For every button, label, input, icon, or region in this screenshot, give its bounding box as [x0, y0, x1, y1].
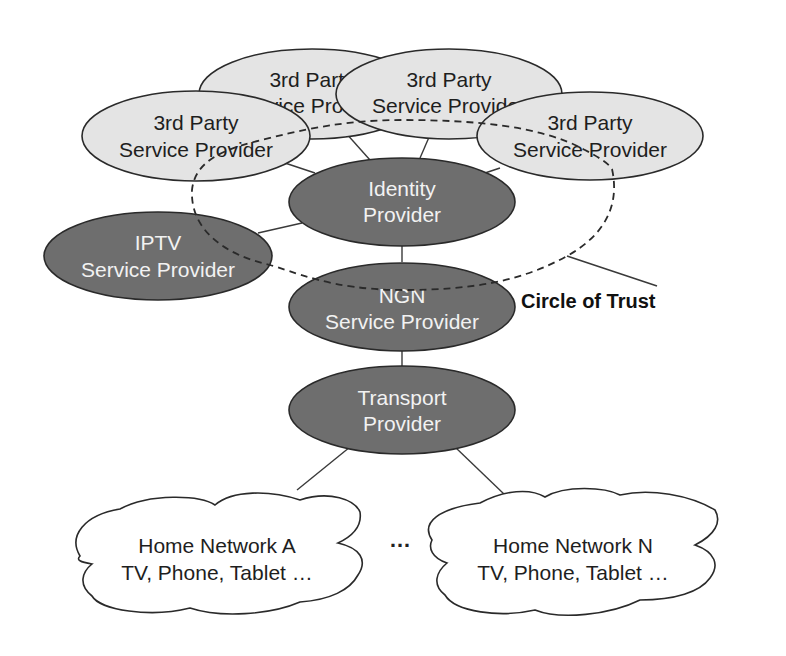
node-identity-line2: Provider — [363, 203, 441, 226]
edge-iptv-identity — [258, 223, 302, 233]
node-ngn-line2: Service Provider — [325, 310, 479, 333]
home-n-line2: TV, Phone, Tablet … — [477, 561, 668, 584]
circle-of-trust-pointer — [567, 256, 657, 286]
node-iptv-line1: IPTV — [135, 231, 182, 254]
node-tp-left-line2: Service Provider — [119, 138, 273, 161]
home-a-line1: Home Network A — [138, 534, 296, 557]
node-identity-provider: Identity Provider — [289, 158, 515, 246]
node-tp-back-right-line1: 3rd Party — [406, 68, 492, 91]
node-transport-line2: Provider — [363, 412, 441, 435]
node-home-network-n: Home Network N TV, Phone, Tablet … — [429, 489, 718, 616]
node-iptv-line2: Service Provider — [81, 258, 235, 281]
node-tp-right-line2: Service Provider — [513, 138, 667, 161]
node-transport-provider: Transport Provider — [289, 366, 515, 454]
home-a-line2: TV, Phone, Tablet … — [121, 561, 312, 584]
edge-transport-home-n — [455, 447, 505, 495]
circle-of-trust-label: Circle of Trust — [521, 290, 656, 312]
node-ngn-line1: NGN — [379, 284, 426, 307]
node-transport-line1: Transport — [357, 386, 446, 409]
node-tp-left-line1: 3rd Party — [153, 111, 239, 134]
home-n-line1: Home Network N — [493, 534, 653, 557]
node-tp-right: 3rd Party Service Provider — [477, 92, 703, 180]
node-ngn-service-provider: NGN Service Provider — [289, 263, 515, 351]
node-iptv-service-provider: IPTV Service Provider — [44, 212, 272, 300]
edge-transport-home-a — [297, 447, 350, 490]
node-identity-line1: Identity — [368, 177, 436, 200]
ellipsis-more-networks: … — [389, 527, 411, 552]
node-tp-right-line1: 3rd Party — [547, 111, 633, 134]
circle-of-trust-diagram: 3rd Party Service Provider 3rd Party Ser… — [0, 0, 786, 656]
node-home-network-a: Home Network A TV, Phone, Tablet … — [76, 493, 362, 614]
edge-tp-left-identity — [285, 163, 315, 173]
